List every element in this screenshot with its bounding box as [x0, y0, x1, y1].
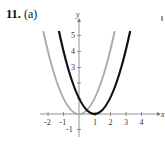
y-tick-label: 5 [71, 31, 75, 40]
x-tick-label: 2 [109, 118, 113, 127]
graph: -2 -1 1 2 3 4 -1 3 4 5 x y [0, 0, 165, 147]
x-axis-label: x [160, 110, 165, 119]
x-tick-label: 1 [93, 118, 97, 127]
y-tick-label: 4 [71, 47, 75, 56]
y-tick-label: 3 [71, 63, 75, 72]
y-tick-label: -1 [66, 125, 73, 134]
x-tick-label: 3 [124, 118, 128, 127]
x-tick-label: -2 [44, 118, 51, 127]
curve-x-minus-1-squared [59, 31, 130, 114]
x-tick-label: 4 [140, 118, 144, 127]
y-axis-label: y [75, 10, 80, 19]
